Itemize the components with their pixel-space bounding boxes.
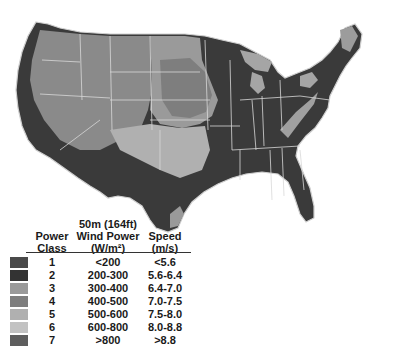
legend-row: 7 >800 >8.8 xyxy=(8,334,208,347)
legend-class: 7 xyxy=(46,334,58,347)
legend-header-power-class: Power Class xyxy=(34,230,70,254)
legend-power: >800 xyxy=(78,334,138,347)
legend-header-wind-power: 50m (164ft) Wind Power (W/m²) xyxy=(72,218,144,254)
header-text: Power xyxy=(34,230,70,242)
legend-swatch xyxy=(10,283,28,294)
legend-swatch xyxy=(10,335,28,346)
legend-class: 1 xyxy=(46,256,58,269)
legend-power: 400-500 xyxy=(78,295,138,308)
legend-class: 4 xyxy=(46,295,58,308)
legend-row: 1 <200 <5.6 xyxy=(8,256,208,269)
header-text: Wind Power xyxy=(72,230,144,242)
header-text: Speed xyxy=(144,230,186,242)
legend-power: 200-300 xyxy=(78,269,138,282)
legend-speed: 6.4-7.0 xyxy=(140,282,190,295)
legend-row: 3 300-400 6.4-7.0 xyxy=(8,282,208,295)
legend-class: 5 xyxy=(46,308,58,321)
legend-speed: >8.8 xyxy=(140,334,190,347)
legend-speed: <5.6 xyxy=(140,256,190,269)
legend-swatch xyxy=(10,257,28,268)
legend-power: 500-600 xyxy=(78,308,138,321)
legend-row: 6 600-800 8.0-8.8 xyxy=(8,321,208,334)
legend-header-speed: Speed (m/s) xyxy=(144,230,186,254)
legend-power: 600-800 xyxy=(78,321,138,334)
legend-row: 4 400-500 7.0-7.5 xyxy=(8,295,208,308)
legend-row: 5 500-600 7.5-8.0 xyxy=(8,308,208,321)
legend-class: 3 xyxy=(46,282,58,295)
legend-class: 6 xyxy=(46,321,58,334)
legend-swatch xyxy=(10,309,28,320)
legend-divider xyxy=(26,252,191,253)
legend-power: <200 xyxy=(78,256,138,269)
legend-swatch xyxy=(10,322,28,333)
legend-swatch xyxy=(10,270,28,281)
legend-swatch xyxy=(10,296,28,307)
header-text: 50m (164ft) xyxy=(72,218,144,230)
legend-class: 2 xyxy=(46,269,58,282)
legend-speed: 8.0-8.8 xyxy=(140,321,190,334)
legend-power: 300-400 xyxy=(78,282,138,295)
legend-speed: 7.0-7.5 xyxy=(140,295,190,308)
legend-row: 2 200-300 5.6-6.4 xyxy=(8,269,208,282)
legend-speed: 7.5-8.0 xyxy=(140,308,190,321)
legend-speed: 5.6-6.4 xyxy=(140,269,190,282)
